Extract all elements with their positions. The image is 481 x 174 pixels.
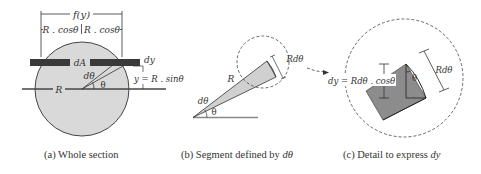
label-dy: dy [144, 55, 156, 65]
wedge-segment [193, 61, 276, 118]
label-theta-c: θ [412, 73, 417, 83]
label-dtheta: dθ [83, 71, 95, 81]
label-dA: dA [74, 58, 87, 68]
label-dy-expression: dy = Rdθ . cosθ [328, 76, 395, 86]
caption-a: (a) Whole section [44, 149, 119, 161]
label-y-equals: y = R . sinθ [133, 74, 184, 84]
label-fy: f(y) [72, 9, 90, 20]
label-dtheta-b: dθ [198, 96, 209, 106]
caption-b: (b) Segment defined by dθ [181, 149, 293, 161]
detail-connector-arrow [307, 68, 329, 75]
label-half-width-left: R . cosθ [42, 25, 79, 35]
label-radius-R: R [55, 85, 63, 95]
label-rdtheta-b: Rdθ [286, 54, 304, 64]
panel-b-segment: R dθ θ Rdθ [193, 36, 303, 118]
panel-a-whole-section: f(y) R . cosθ R . cosθ dA R dθ θ dy y = … [22, 9, 184, 137]
label-theta-b: θ [211, 107, 216, 117]
label-theta: θ [100, 80, 105, 90]
figure-canvas: f(y) R . cosθ R . cosθ dA R dθ θ dy y = … [0, 0, 481, 174]
panel-c-detail: dy = Rdθ . cosθ θ Rdθ [327, 19, 463, 137]
label-radius-R-b: R [227, 74, 235, 84]
caption-c: (c) Detail to express dy [343, 149, 441, 161]
label-half-width-right: R . cosθ [83, 25, 120, 35]
label-rdtheta-c: Rdθ [435, 65, 453, 75]
